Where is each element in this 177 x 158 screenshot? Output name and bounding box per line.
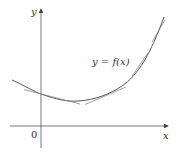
function-curve: [12, 17, 164, 101]
graph-svg: y x 0 y = f(x): [0, 0, 177, 158]
curve-label: y = f(x): [91, 56, 130, 67]
tangent-line-2: [85, 87, 126, 105]
diagram-canvas: y x 0 y = f(x): [0, 0, 177, 158]
tangent-line-1: [24, 90, 80, 105]
x-axis-label: x: [163, 130, 169, 141]
tangent-line-3: [132, 53, 148, 76]
y-axis-label: y: [30, 6, 37, 17]
origin-label: 0: [31, 129, 37, 140]
tangent-line-4: [152, 20, 165, 42]
